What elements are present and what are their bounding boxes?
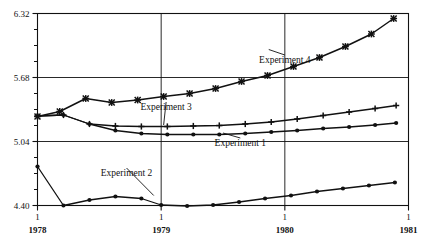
- series-marker-experiment-1: [191, 132, 195, 136]
- series-label-experiment-2: Experiment 2: [101, 168, 153, 178]
- x-tick-top-label-1981: 1: [406, 212, 411, 222]
- series-marker-experiment-1: [165, 132, 169, 136]
- y-tick-label-6.32: 6.32: [14, 9, 30, 19]
- series-marker-experiment-1: [373, 123, 377, 127]
- series-marker-experiment-2: [341, 186, 345, 190]
- series-marker-experiment-2: [289, 193, 293, 197]
- series-marker-experiment-1: [243, 131, 247, 135]
- series-marker-experiment-2: [87, 198, 91, 202]
- series-marker-experiment-2: [139, 196, 143, 200]
- y-tick-label-5.04: 5.04: [14, 137, 30, 147]
- series-marker-experiment-1: [139, 131, 143, 135]
- series-line-experiment-4: [38, 19, 394, 117]
- series-marker-experiment-1: [269, 130, 273, 134]
- series-marker-experiment-2: [393, 180, 397, 184]
- x-axis-year-label-1979: 1979: [152, 225, 171, 235]
- series-marker-experiment-2: [61, 203, 65, 207]
- series-marker-experiment-1: [347, 125, 351, 129]
- series-label-experiment-3: Experiment 3: [140, 102, 192, 112]
- line-chart: 4.405.045.686.3211978119791198011981Expe…: [0, 0, 431, 250]
- y-tick-label-4.40: 4.40: [14, 201, 30, 211]
- series-marker-experiment-2: [237, 200, 241, 204]
- chart-canvas: 4.405.045.686.3211978119791198011981Expe…: [0, 0, 431, 250]
- x-tick-top-label-1979: 1: [159, 212, 164, 222]
- series-marker-experiment-2: [185, 204, 189, 208]
- y-tick-label-5.68: 5.68: [14, 73, 30, 83]
- x-tick-top-label-1978: 1: [35, 212, 40, 222]
- series-marker-experiment-2: [113, 194, 117, 198]
- series-marker-experiment-2: [35, 164, 39, 168]
- series-marker-experiment-1: [217, 132, 221, 136]
- series-marker-experiment-1: [321, 126, 325, 130]
- series-marker-experiment-1: [295, 128, 299, 132]
- x-tick-top-label-1980: 1: [283, 212, 288, 222]
- series-marker-experiment-2: [211, 203, 215, 207]
- series-label-experiment-1: Experiment 1: [215, 138, 267, 148]
- x-axis-year-label-1981: 1981: [400, 225, 419, 235]
- x-axis-year-label-1978: 1978: [29, 225, 48, 235]
- series-marker-experiment-2: [367, 183, 371, 187]
- series-marker-experiment-2: [263, 196, 267, 200]
- series-label-experiment-4: Experiment 4: [259, 55, 311, 65]
- x-axis-year-label-1980: 1980: [276, 225, 295, 235]
- series-marker-experiment-2: [159, 203, 163, 207]
- series-marker-experiment-2: [315, 189, 319, 193]
- series-marker-experiment-1: [394, 121, 398, 125]
